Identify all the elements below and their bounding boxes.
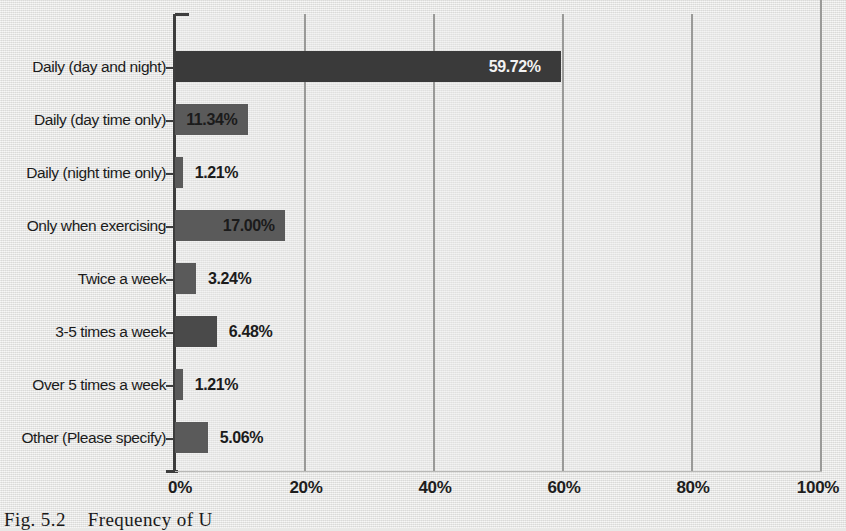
x-axis-line [175,471,822,472]
gridline-80 [691,14,693,472]
x-tick-label-2: 40% [418,478,451,498]
bar-value-1: 11.34% [186,111,237,129]
category-label-2: Daily (night time only) [26,164,166,182]
axis-top-cap [175,13,189,16]
x-tick-label-4: 80% [676,478,709,498]
x-tick-label-5: 100% [797,478,839,498]
x-tick-label-3: 60% [547,478,580,498]
bar-value-5: 6.48% [229,323,272,341]
x-tick-label-0: 0% [168,478,192,498]
category-label-5: 3-5 times a week [55,323,166,341]
bar-7 [175,422,208,453]
x-tick-label-1: 20% [289,478,322,498]
figure-caption-text: Frequency of U [88,509,213,530]
gridline-60 [562,14,564,472]
plot-area [175,14,821,472]
gridline-40 [433,14,435,472]
category-label-3: Only when exercising [27,217,166,235]
bar-value-0: 59.72% [489,58,541,76]
bar-6 [175,369,183,400]
category-label-0: Daily (day and night) [32,58,166,76]
gridline-20 [304,14,306,472]
category-label-7: Other (Please specify) [21,429,166,447]
bar-4 [175,263,196,294]
gridline-100 [820,0,822,472]
y-axis-line [173,14,176,473]
bar-value-3: 17.00% [223,217,275,235]
category-label-4: Twice a week [78,270,166,288]
category-label-1: Daily (day time only) [34,111,166,129]
bar-value-7: 5.06% [220,429,263,447]
category-label-6: Over 5 times a week [32,376,166,394]
bar-value-2: 1.21% [195,164,238,182]
figure-caption: Fig. 5.2Frequency of U [4,509,213,531]
bar-value-4: 3.24% [208,270,251,288]
figure-caption-number: Fig. 5.2 [4,509,66,530]
bar-value-6: 1.21% [195,376,238,394]
bar-5 [175,316,217,347]
bar-2 [175,157,183,188]
